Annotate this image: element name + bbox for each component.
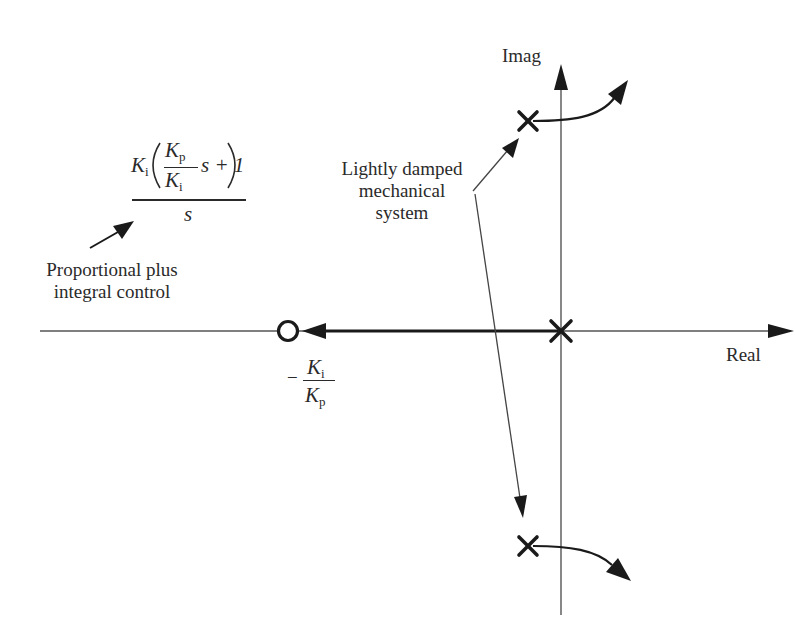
pi-caption-pointer bbox=[90, 221, 134, 248]
tf-inner-tail: s + 1 bbox=[201, 154, 244, 176]
pointer-lower-arrowhead-icon bbox=[514, 495, 527, 518]
imag-axis-arrowhead-icon bbox=[554, 64, 568, 90]
zero-label-sign: − bbox=[287, 367, 298, 389]
diagram-graphics bbox=[0, 0, 795, 640]
imag-axis bbox=[554, 64, 568, 615]
tf-inner-numerator: Kp bbox=[165, 139, 186, 168]
lightly-damped-annotation: Lightly damped mechanical system bbox=[322, 158, 482, 224]
real-axis-arrowhead-icon bbox=[768, 324, 794, 338]
zero-circle-icon bbox=[279, 322, 298, 341]
real-axis-label: Real bbox=[726, 344, 761, 366]
pi-pointer-arrowhead-icon bbox=[113, 221, 134, 239]
annotation-line3: system bbox=[322, 202, 482, 224]
tf-inner-denominator: Ki bbox=[165, 169, 183, 198]
imag-axis-label: Imag bbox=[502, 45, 541, 67]
real-axis-locus-branch bbox=[302, 323, 558, 339]
pi-caption-line2: integral control bbox=[22, 281, 202, 303]
annotation-line1: Lightly damped bbox=[322, 158, 482, 180]
tf-denominator: s bbox=[184, 203, 192, 225]
pi-caption-line1: Proportional plus bbox=[22, 259, 202, 281]
root-locus-diagram: Ki Kp Ki s + 1 s Proportional plus integ… bbox=[0, 0, 795, 640]
zero-label-denominator: Kp bbox=[305, 384, 326, 413]
lower-branch-arrowhead-icon bbox=[606, 558, 631, 581]
annotation-line2: mechanical bbox=[322, 180, 482, 202]
upper-locus-branch bbox=[533, 80, 628, 121]
pi-caption: Proportional plus integral control bbox=[22, 259, 202, 303]
tf-main-fraction-bar bbox=[132, 199, 246, 201]
tf-gain: Ki bbox=[131, 154, 149, 183]
locus-arrowhead-left-icon bbox=[302, 323, 326, 339]
lower-locus-branch bbox=[533, 546, 631, 581]
zero-label-fraction-bar bbox=[303, 380, 335, 381]
